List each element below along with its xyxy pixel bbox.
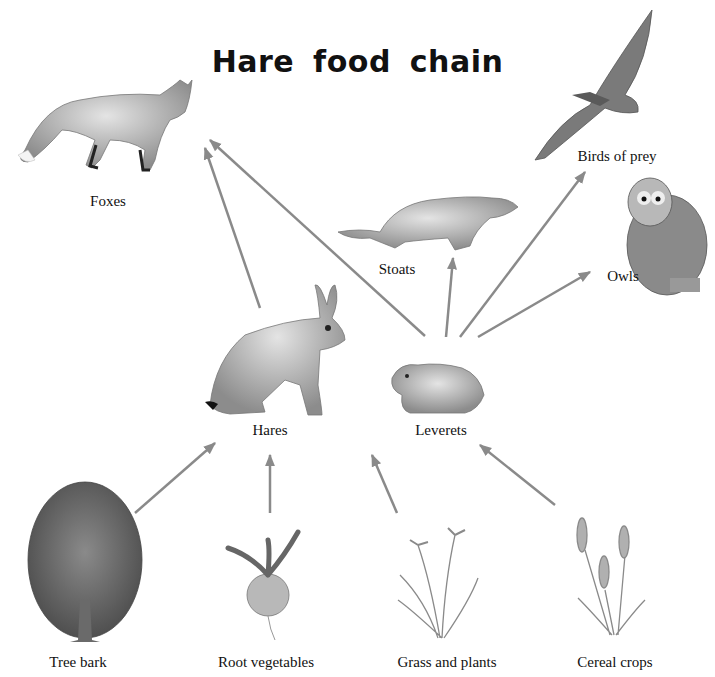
arrow-treebark-to-hares [135,443,215,513]
label-owls: Owls [607,268,639,285]
label-birds-of-prey: Birds of prey [577,148,656,165]
food-chain-diagram: Hare food chain [0,0,715,677]
arrow-grass-to-leverets [372,455,397,513]
label-foxes: Foxes [90,193,126,210]
label-grass-and-plants: Grass and plants [397,654,496,671]
label-cereal-crops: Cereal crops [577,654,652,671]
arrow-cereal-to-leverets [480,445,555,505]
arrows [135,140,590,513]
arrow-hares-to-foxes [205,148,260,308]
arrow-leverets-to-owls [478,272,590,337]
grass-illustration [398,528,478,638]
arrow-leverets-to-stoats [446,258,453,337]
label-root-vegetables: Root vegetables [218,654,314,671]
label-tree-bark: Tree bark [49,654,106,671]
label-leverets: Leverets [415,422,467,439]
illustrations [0,0,715,677]
root-vegetable-illustration [228,532,298,640]
leveret-illustration [392,364,484,413]
cereal-illustration [577,518,645,635]
bird-of-prey-illustration [535,10,652,160]
label-stoats: Stoats [379,261,416,278]
fox-illustration [18,80,192,170]
stoat-illustration [338,197,518,250]
tree-illustration [28,482,142,642]
hare-illustration [205,285,345,415]
label-hares: Hares [253,422,288,439]
